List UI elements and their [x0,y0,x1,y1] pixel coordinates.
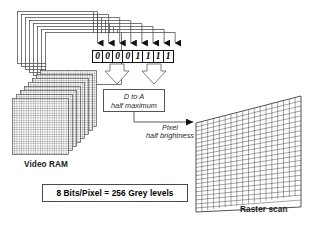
grey-levels-caption-box: 8 Bits/Pixel = 256 Grey levels [42,184,188,202]
video-ram-plane-stack [13,71,97,155]
funnel-arrow [105,64,166,84]
pixel-signal-label: Pixel half brightness [134,124,206,141]
raster-scan-screen [196,96,301,212]
dta-line-2: half maximum [111,101,157,110]
pixel-signal-arrow [134,112,193,122]
video-ram-label: Video RAM [24,160,68,169]
digital-to-analog-box: D to A half maximum [103,89,165,112]
raster-scan-label: Raster scan [240,205,288,214]
bit-cell-7[interactable]: 1 [163,50,174,63]
bit-register: 0 0 0 0 1 1 1 1 [92,50,174,63]
dta-line-1: D to A [124,92,144,101]
pixel-signal-line-2: half brightness [134,132,206,140]
grey-levels-caption-text: 8 Bits/Pixel = 256 Grey levels [56,188,173,198]
diagram-canvas: 0 0 0 0 1 1 1 1 D to A half maximum Pixe… [0,0,314,247]
